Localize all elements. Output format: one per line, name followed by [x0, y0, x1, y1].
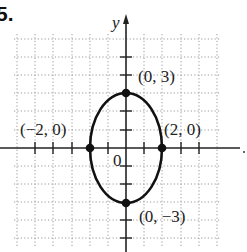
- point-label-2-0: (2, 0): [164, 120, 201, 139]
- y-axis-arrow-icon: [123, 14, 129, 24]
- point-2-0: [158, 144, 167, 153]
- x-axis-arrow-stub: [243, 151, 245, 153]
- point-0-3: [122, 89, 131, 98]
- coordinate-plane: y 0 (0, 3) (2, 0) (−2, 0) (0, −3): [0, 0, 247, 252]
- grid: [14, 34, 220, 248]
- y-axis-label: y: [110, 13, 120, 32]
- point-label-neg2-0: (−2, 0): [20, 120, 66, 139]
- point-label-0-neg3: (0, −3): [139, 207, 185, 226]
- origin-label: 0: [113, 151, 122, 170]
- point-0-neg3: [122, 199, 131, 208]
- problem-number: 5.: [0, 2, 14, 26]
- ellipse-graph-figure: 5.: [0, 0, 247, 252]
- point-neg2-0: [86, 144, 95, 153]
- point-label-0-3: (0, 3): [138, 67, 175, 86]
